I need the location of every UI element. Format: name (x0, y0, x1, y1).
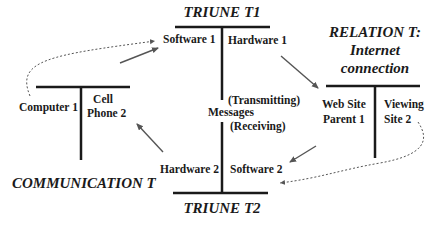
title-relation-connection: connection (320, 60, 430, 77)
label-software-1: Software 1 (163, 33, 216, 46)
triune-diagram: TRIUNE T1 TRIUNE T2 COMMUNICATION T RELA… (0, 0, 437, 226)
label-cell: Cell (86, 93, 120, 106)
label-messages: Messages (208, 106, 254, 119)
label-parent-1: Parent 1 (323, 113, 365, 126)
label-web-site: Web Site (322, 98, 366, 111)
label-hardware-2: Hardware 2 (160, 163, 219, 176)
dotted-viewing-to-software2 (280, 122, 424, 183)
arrow-relation-to-software2 (290, 146, 316, 162)
arrow-hardware1-to-relation (281, 56, 318, 88)
arrow-hardware2-to-cellphone (137, 124, 163, 152)
title-triune-t1: TRIUNE T1 (172, 4, 272, 21)
arrow-communication-to-software1 (120, 48, 158, 63)
label-software-2: Software 2 (230, 163, 283, 176)
label-phone-2: Phone 2 (87, 107, 126, 120)
label-site-2: Site 2 (384, 113, 411, 126)
title-relation-internet: Internet (320, 42, 430, 59)
label-hardware-1: Hardware 1 (228, 34, 287, 47)
title-relation-t: RELATION T: (320, 24, 430, 41)
label-computer-1: Computer 1 (19, 101, 78, 114)
label-receiving: (Receiving) (230, 120, 286, 133)
title-communication-t: COMMUNICATION T (12, 175, 156, 192)
title-triune-t2: TRIUNE T2 (172, 200, 272, 217)
label-viewing: Viewing (384, 98, 424, 111)
